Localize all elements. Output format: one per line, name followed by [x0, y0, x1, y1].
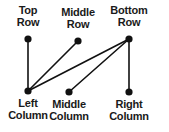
node-label-top-row-line1: Top — [0, 5, 56, 17]
node-right-column[interactable] — [125, 88, 132, 95]
edge-middle-row-left-column — [28, 41, 78, 91]
node-label-middle-column: Middle Column — [39, 99, 99, 122]
node-top-row[interactable] — [24, 35, 31, 42]
node-bottom-row[interactable] — [125, 35, 132, 42]
node-middle-row[interactable] — [74, 37, 81, 44]
node-label-middle-row-line2: Row — [50, 19, 106, 31]
node-label-bottom-row-line2: Row — [101, 17, 157, 29]
node-label-middle-column-line2: Column — [39, 111, 99, 123]
node-label-middle-column-line1: Middle — [39, 99, 99, 111]
node-label-bottom-row: Bottom Row — [101, 5, 157, 28]
node-left-column[interactable] — [24, 87, 31, 94]
node-label-right-column-line1: Right — [99, 99, 159, 111]
node-label-right-column: Right Column — [99, 99, 159, 122]
node-label-right-column-line2: Column — [99, 111, 159, 123]
diagram-canvas: Top Row Middle Row Bottom Row Left Colum… — [0, 0, 169, 132]
node-label-middle-row-line1: Middle — [50, 7, 106, 19]
node-label-top-row: Top Row — [0, 5, 56, 28]
node-label-bottom-row-line1: Bottom — [101, 5, 157, 17]
node-label-middle-row: Middle Row — [50, 7, 106, 30]
node-label-top-row-line2: Row — [0, 17, 56, 29]
node-middle-column[interactable] — [65, 88, 72, 95]
edges-group — [28, 39, 129, 92]
